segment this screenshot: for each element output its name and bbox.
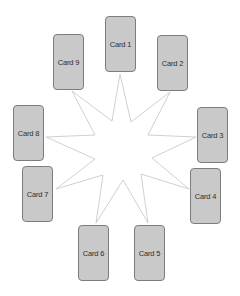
card-8[interactable]: Card 8	[13, 105, 44, 161]
card-label: Card 2	[162, 59, 183, 68]
card-label: Card 5	[139, 249, 160, 258]
card-3[interactable]: Card 3	[197, 107, 228, 163]
card-label: Card 1	[110, 40, 131, 49]
card-label: Card 4	[195, 192, 216, 201]
card-6[interactable]: Card 6	[78, 225, 109, 281]
card-2[interactable]: Card 2	[157, 35, 188, 91]
card-label: Card 8	[18, 129, 39, 138]
card-label: Card 9	[58, 58, 79, 67]
card-star-diagram: Card 1 Card 2 Card 3 Card 4 Card 5 Card …	[0, 0, 240, 296]
star-polygon	[46, 74, 196, 223]
card-label: Card 3	[202, 131, 223, 140]
card-9[interactable]: Card 9	[53, 34, 84, 90]
card-label: Card 7	[27, 190, 48, 199]
card-4[interactable]: Card 4	[190, 168, 221, 224]
card-label: Card 6	[83, 249, 104, 258]
card-7[interactable]: Card 7	[22, 166, 53, 222]
card-5[interactable]: Card 5	[134, 225, 165, 281]
card-1[interactable]: Card 1	[105, 16, 136, 72]
